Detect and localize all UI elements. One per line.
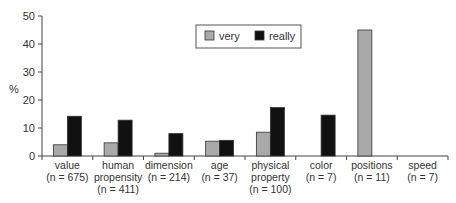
category-label: positions <box>351 159 392 171</box>
category-label: human <box>102 159 134 171</box>
legend-label-very: very <box>219 30 240 42</box>
bar-really <box>67 116 81 156</box>
y-tick-label: 10 <box>23 122 35 134</box>
bar-really <box>321 115 335 156</box>
bar-very <box>155 153 169 156</box>
category-label: physical <box>251 159 289 171</box>
bar-very <box>206 141 220 156</box>
category-label: color <box>310 159 333 171</box>
legend-swatch-very <box>205 31 214 40</box>
bars <box>53 30 372 156</box>
y-tick-label: 20 <box>23 94 35 106</box>
bar-really <box>169 134 183 156</box>
bar-very <box>104 143 118 156</box>
y-tick-label: 30 <box>23 66 35 78</box>
category-label: property <box>251 171 290 183</box>
y-tick-label: 0 <box>29 150 35 162</box>
category-label: speed <box>408 159 437 171</box>
category-n-label: (n = 7) <box>306 171 337 183</box>
bar-very <box>53 145 67 156</box>
y-axis-label: % <box>9 83 19 95</box>
bar-really <box>270 108 284 156</box>
category-label: propensity <box>94 171 143 183</box>
bar-very <box>358 30 372 156</box>
x-axis-labels: value(n = 675)humanpropensity(n = 411)di… <box>46 159 438 195</box>
category-n-label: (n = 11) <box>354 171 390 183</box>
y-tick-label: 50 <box>23 10 35 22</box>
bar-really <box>220 140 234 156</box>
category-n-label: (n = 411) <box>97 183 139 195</box>
y-tick-label: 40 <box>23 38 35 50</box>
category-n-label: (n = 214) <box>148 171 190 183</box>
legend: veryreally <box>196 25 301 48</box>
category-n-label: (n = 37) <box>201 171 237 183</box>
category-label: age <box>211 159 229 171</box>
category-n-label: (n = 7) <box>407 171 438 183</box>
category-n-label: (n = 675) <box>46 171 88 183</box>
category-label: dimension <box>145 159 193 171</box>
category-label: value <box>55 159 80 171</box>
bar-very <box>256 132 270 156</box>
bar-chart: 01020304050% value(n = 675)humanpropensi… <box>0 0 456 203</box>
legend-swatch-really <box>255 31 264 40</box>
legend-label-really: really <box>269 30 296 42</box>
category-n-label: (n = 100) <box>249 183 291 195</box>
bar-really <box>118 120 132 156</box>
